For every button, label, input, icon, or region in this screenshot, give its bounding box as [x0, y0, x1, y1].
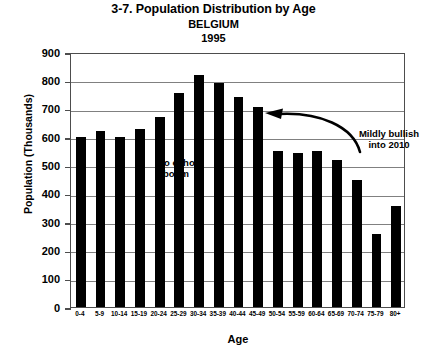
x-axis-tick-labels: 0-45-910-1415-1920-2425-2930-3435-3940-4…: [70, 310, 405, 326]
page-title: 3-7. Population Distribution by Age: [0, 2, 427, 17]
y-axis-tick-label: 900: [20, 48, 60, 59]
bar: [391, 206, 401, 307]
y-axis-tick: [65, 138, 71, 139]
y-axis-tick-label: 0: [20, 303, 60, 314]
y-axis-tick-label: 500: [20, 161, 60, 172]
chart-title-block: 3-7. Population Distribution by Age BELG…: [0, 2, 427, 45]
population-distribution-chart: 3-7. Population Distribution by Age BELG…: [0, 0, 427, 358]
chart-subtitle-year: 1995: [0, 31, 427, 45]
bar: [372, 234, 382, 307]
y-axis-tick-label: 800: [20, 76, 60, 87]
y-axis-tick: [65, 195, 71, 196]
y-axis-tick: [65, 167, 71, 168]
x-axis-label: Age: [70, 333, 406, 345]
trend-arrow-icon: [257, 108, 367, 156]
plot-area: No echo boom Mildly bullish into 2010: [70, 53, 405, 308]
bar: [194, 75, 204, 307]
bar: [174, 93, 184, 307]
y-axis-tick-label: 700: [20, 104, 60, 115]
y-axis-tick-label: 600: [20, 133, 60, 144]
y-axis-tick: [65, 252, 71, 253]
y-axis-tick-label: 400: [20, 189, 60, 200]
bar: [312, 151, 322, 307]
bar: [115, 137, 125, 307]
gridline: [71, 82, 404, 83]
bar: [76, 137, 86, 307]
bar: [332, 160, 342, 307]
annotation-no-echo-boom: No echo boom: [145, 157, 207, 179]
y-axis-tick: [65, 280, 71, 281]
bar: [273, 151, 283, 307]
y-axis-tick-label: 200: [20, 246, 60, 257]
bar: [214, 83, 224, 307]
bar: [135, 129, 145, 308]
bar: [352, 180, 362, 308]
y-axis-tick-label: 300: [20, 218, 60, 229]
x-axis-tick-label: 80+: [381, 310, 409, 318]
bar: [155, 117, 165, 307]
y-axis-tick: [65, 223, 71, 224]
y-axis-tick: [65, 53, 71, 54]
y-axis-tick: [65, 110, 71, 111]
bar: [234, 97, 244, 307]
bar: [293, 153, 303, 307]
bar: [96, 131, 106, 307]
chart-subtitle-country: BELGIUM: [0, 17, 427, 31]
y-axis-tick-label: 100: [20, 274, 60, 285]
y-axis-tick: [65, 82, 71, 83]
